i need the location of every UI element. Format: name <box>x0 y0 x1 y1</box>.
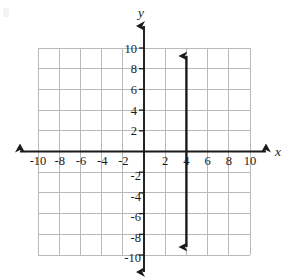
y-tick-label: 8 <box>131 62 137 76</box>
y-tick-label: -6 <box>131 210 141 224</box>
coordinate-plane-svg: -10 -8 -6 -4 -2 2 4 6 8 10 10 8 6 4 2 -2… <box>0 0 292 280</box>
y-tick-label: 4 <box>131 104 138 118</box>
x-tick-label: 2 <box>162 154 168 168</box>
y-axis-label: y <box>136 5 144 20</box>
y-tick-label: 2 <box>131 124 137 138</box>
x-tick-label: -2 <box>118 154 128 168</box>
y-tick-label: -2 <box>131 169 141 183</box>
y-tick-label: -10 <box>124 251 141 265</box>
x-tick-label: 8 <box>226 154 232 168</box>
x-tick-label: -8 <box>55 154 65 168</box>
x-tick-label: 6 <box>204 154 210 168</box>
y-tick-label: -4 <box>131 190 142 204</box>
x-tick-label: -4 <box>97 154 108 168</box>
y-tick-label: 6 <box>131 83 137 97</box>
x-axis-tick-labels: -10 -8 -6 -4 -2 2 4 6 8 10 <box>30 154 257 168</box>
x-tick-label: -6 <box>76 154 86 168</box>
coordinate-plane-figure: -10 -8 -6 -4 -2 2 4 6 8 10 10 8 6 4 2 -2… <box>0 0 292 280</box>
y-tick-label: -8 <box>131 231 141 245</box>
x-tick-label: 10 <box>244 154 257 168</box>
x-axis-label: x <box>274 144 281 159</box>
x-tick-label: -10 <box>30 154 47 168</box>
y-tick-label: 10 <box>125 42 138 56</box>
